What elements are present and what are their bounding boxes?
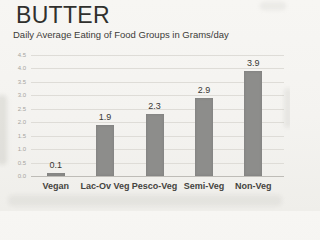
category-label: Semi-Veg [184,181,225,191]
y-axis-tick-label: 4.5 [8,52,26,58]
bar [244,71,262,176]
bar-value-label: 1.9 [99,112,112,122]
scan-smudge-artifact [0,95,7,165]
category-label: Vegan [42,181,69,191]
gridline [31,55,284,56]
bar [195,98,213,176]
y-axis-tick-label: 3.5 [8,79,26,85]
y-axis-tick-label: 1.5 [8,133,26,139]
bar [96,125,114,176]
bar-value-label: 0.1 [49,160,62,170]
category-label: Lac-Ov Veg [81,181,130,191]
y-axis-tick-label: 4.0 [8,65,26,71]
chart-subtitle: Daily Average Eating of Food Groups in G… [13,29,229,40]
y-axis-tick-label: 0.5 [8,160,26,166]
y-axis-tick-label: 2.0 [8,119,26,125]
scan-smudge-artifact [284,88,290,128]
bar-value-label: 2.9 [198,85,211,95]
category-label: Pesco-Veg [132,181,178,191]
x-axis-line [31,176,284,177]
bar [47,173,65,176]
bar-value-label: 3.9 [247,58,260,68]
category-label: Non-Veg [235,181,272,191]
plot-area: 0.00.51.01.52.02.53.03.54.04.50.1Vegan1.… [31,55,278,176]
chart-title: BUTTER [16,2,110,29]
y-axis-tick-label: 2.5 [8,106,26,112]
bar [146,114,164,176]
bar-value-label: 2.3 [148,101,161,111]
scan-smudge-artifact [260,2,286,10]
y-axis-tick-label: 0.0 [8,173,26,179]
gridline [31,68,284,69]
scanned-chart-page: BUTTER Daily Average Eating of Food Grou… [0,0,290,211]
y-axis-tick-label: 3.0 [8,92,26,98]
scan-smudge-artifact [8,195,282,206]
y-axis-tick-label: 1.0 [8,146,26,152]
